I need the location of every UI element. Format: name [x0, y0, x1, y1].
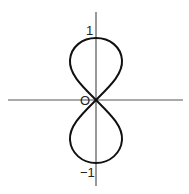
- polar-plot: 1 O −1: [0, 0, 189, 194]
- tick-label-top: 1: [86, 23, 93, 38]
- tick-label-origin: O: [80, 93, 90, 108]
- tick-label-bottom: −1: [80, 165, 95, 180]
